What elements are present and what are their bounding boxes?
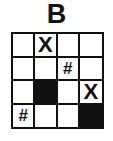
hash-mark-icon: # <box>18 107 27 124</box>
grid-cell-r3-c2 <box>58 105 80 128</box>
grid-cell-r0-c2 <box>58 34 80 58</box>
grid-cell-r0-c1: X <box>35 34 57 58</box>
grid-cell-r3-c0: # <box>13 105 35 128</box>
grid-cell-r1-c3 <box>80 58 102 81</box>
grid-cell-r2-c1-filled <box>35 81 57 105</box>
grid-cell-r2-c2 <box>58 81 80 105</box>
puzzle-label: B <box>0 0 113 28</box>
grid-cell-r2-c0 <box>13 81 35 105</box>
x-mark-icon: X <box>38 34 53 56</box>
grid-cell-r3-c1 <box>35 105 57 128</box>
grid-cell-r3-c3-filled <box>80 105 102 128</box>
grid-cell-r0-c0 <box>13 34 35 58</box>
grid-cell-r0-c3 <box>80 34 102 58</box>
grid-cell-r1-c2: # <box>58 58 80 81</box>
hash-mark-icon: # <box>63 60 72 77</box>
grid-cell-r2-c3: X <box>80 81 102 105</box>
x-mark-icon: X <box>84 81 99 103</box>
puzzle-grid: X # X # <box>11 32 104 129</box>
grid-cell-r1-c1 <box>35 58 57 81</box>
grid-cell-r1-c0 <box>13 58 35 81</box>
